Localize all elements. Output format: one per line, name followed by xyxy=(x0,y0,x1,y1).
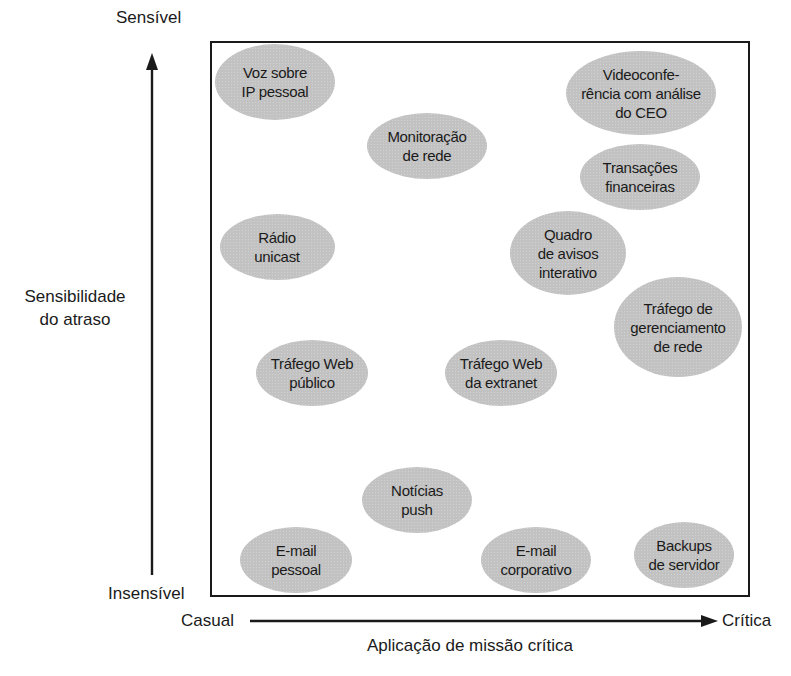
arrow-up-icon xyxy=(146,53,158,70)
y-axis-bottom-label: Insensível xyxy=(108,584,185,604)
y-axis-arrow xyxy=(146,53,158,575)
bubble-noticias-push: Notícias push xyxy=(362,467,472,533)
x-axis-arrow xyxy=(250,615,718,627)
bubble-email-pessoal: E-mail pessoal xyxy=(240,527,352,593)
x-axis-left-label: Casual xyxy=(181,611,234,631)
bubble-transacoes-financeiras: Transações financeiras xyxy=(580,144,700,210)
bubble-radio-unicast: Rádio unicast xyxy=(220,214,335,280)
bubble-voz-sobre-ip-pessoal: Voz sobre IP pessoal xyxy=(215,44,335,120)
bubble-trafego-web-extranet: Tráfego Web da extranet xyxy=(445,340,557,406)
bubble-monitoracao-de-rede: Monitoração de rede xyxy=(367,113,487,179)
bubble-quadro-de-avisos-interativo: Quadro de avisos interativo xyxy=(510,211,626,295)
bubble-email-corporativo: E-mail corporativo xyxy=(481,527,591,593)
bubble-trafego-gerenciamento-de-rede: Tráfego de gerenciamento de rede xyxy=(614,277,742,377)
bubble-backups-de-servidor: Backups de servidor xyxy=(634,522,734,588)
bubble-trafego-web-publico: Tráfego Web público xyxy=(256,340,368,406)
bubble-videoconferencia-ceo: Videoconfe- rência com análise do CEO xyxy=(566,51,716,135)
arrow-right-icon xyxy=(701,615,718,627)
x-axis-right-label: Crítica xyxy=(722,611,771,631)
y-axis-top-label: Sensível xyxy=(116,8,181,28)
y-axis-title: Sensibilidade do atraso xyxy=(10,285,140,331)
x-axis-title: Aplicação de missão crítica xyxy=(300,636,640,656)
